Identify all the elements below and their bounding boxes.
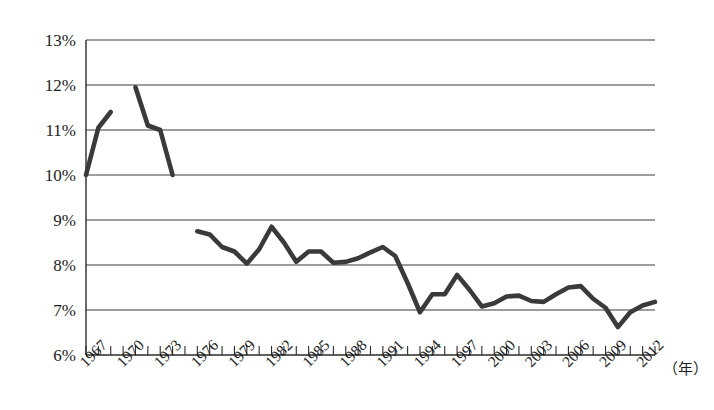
- y-axis-tick-label: 10%: [45, 166, 76, 185]
- y-axis-tick-label: 7%: [53, 301, 76, 320]
- chart-container: 6%7%8%9%10%11%12%13% 1967197019731976197…: [0, 0, 714, 410]
- y-axis-tick-label: 13%: [45, 31, 76, 50]
- y-axis-tick-label: 8%: [53, 256, 76, 275]
- y-axis-tick-label: 9%: [53, 211, 76, 230]
- x-axis-unit-label: （年）: [663, 361, 708, 377]
- y-axis-tick-label: 12%: [45, 76, 76, 95]
- y-axis-tick-label: 6%: [53, 346, 76, 365]
- y-axis-tick-label: 11%: [45, 121, 76, 140]
- line-chart: 6%7%8%9%10%11%12%13% 1967197019731976197…: [0, 0, 714, 410]
